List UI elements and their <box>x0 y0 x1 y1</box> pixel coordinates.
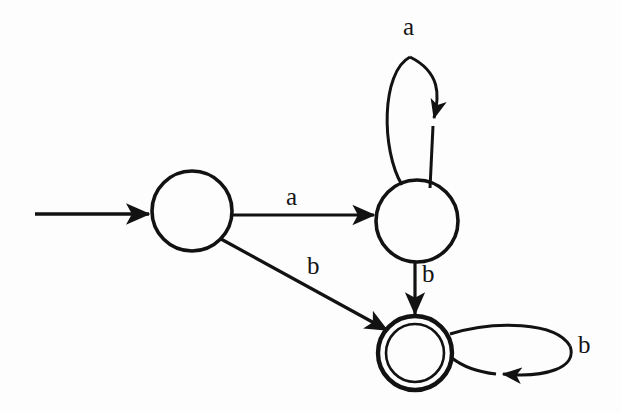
state-q2-accepting-outer[interactable] <box>378 316 452 390</box>
automaton-svg <box>0 0 621 413</box>
self-loop-q2-upper-arc <box>450 325 570 346</box>
transition-label-q0-q2: b <box>307 253 320 278</box>
self-loop-q1-right-leg <box>410 57 437 118</box>
self-loop-q2-tail <box>452 358 496 374</box>
state-q2-accepting-inner <box>386 324 444 382</box>
automaton-diagram-canvas: a b a b b <box>0 0 621 413</box>
state-q1[interactable] <box>376 180 458 262</box>
state-q0-start[interactable] <box>152 171 232 251</box>
self-loop-q2-lower-arc <box>503 346 571 375</box>
transition-label-q2-self-loop: b <box>578 332 591 357</box>
self-loop-q1-tail <box>430 126 433 188</box>
self-loop-q1-left-leg <box>387 57 410 185</box>
transition-label-q0-q1: a <box>286 184 297 209</box>
transition-arrow-q0-q2 <box>221 239 387 330</box>
transition-label-q1-self-loop: a <box>403 14 414 39</box>
transition-label-q1-q2: b <box>422 261 435 286</box>
